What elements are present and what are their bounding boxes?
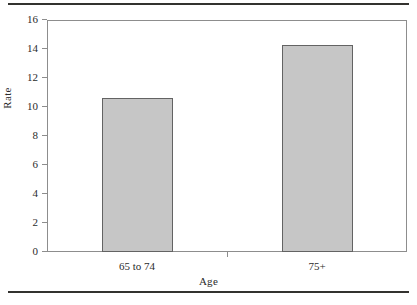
y-tick-label: 4 xyxy=(33,186,39,201)
x-tick-mark xyxy=(227,252,228,257)
top-divider-rule xyxy=(8,3,409,5)
y-tick-label: 16 xyxy=(27,12,38,27)
x-axis-label: Age xyxy=(0,275,417,287)
y-tick-mark xyxy=(42,106,47,107)
y-tick-label: 6 xyxy=(33,157,39,172)
y-tick-mark xyxy=(42,222,47,223)
y-tick-mark xyxy=(42,164,47,165)
y-tick-mark xyxy=(42,19,47,20)
bar-1 xyxy=(102,98,173,252)
bar-chart-figure: Rate 0246810121416 65 to 7475+ Age xyxy=(0,0,417,305)
y-tick-label: 2 xyxy=(33,215,39,230)
y-tick-label: 14 xyxy=(27,41,38,56)
x-tick-label: 65 to 74 xyxy=(119,259,155,273)
x-tick-label: 75+ xyxy=(308,259,325,273)
y-tick-label: 10 xyxy=(27,99,38,114)
y-axis-label: Rate xyxy=(1,68,13,128)
y-tick-mark xyxy=(42,193,47,194)
y-tick-label: 0 xyxy=(33,244,39,259)
bottom-divider-rule xyxy=(8,291,409,293)
y-tick-mark xyxy=(42,77,47,78)
y-tick-label: 8 xyxy=(33,128,39,143)
y-tick-label: 12 xyxy=(27,70,38,85)
y-tick-mark xyxy=(42,48,47,49)
bar-2 xyxy=(282,45,353,252)
y-tick-mark xyxy=(42,251,47,252)
y-tick-mark xyxy=(42,135,47,136)
